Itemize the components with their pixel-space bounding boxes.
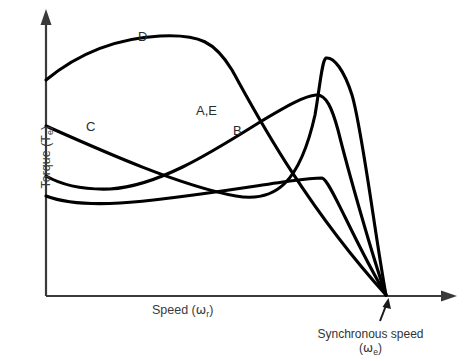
curve-B <box>46 178 386 295</box>
x-axis-label-close: ) <box>209 303 213 317</box>
plot-canvas <box>0 0 469 361</box>
synchronous-speed-pointer <box>380 298 391 321</box>
x-axis-label-text: Speed ( <box>152 303 196 317</box>
x-axis-arrowhead <box>441 291 457 302</box>
curve-label-D: D <box>138 30 147 45</box>
x-axis <box>46 291 457 302</box>
sync-subscript: e <box>373 347 378 357</box>
sync-label-line2: (ωe) <box>303 342 438 356</box>
curve-C <box>46 58 386 295</box>
curve-label-A-E: A,E <box>196 104 217 119</box>
y-axis-arrowhead <box>41 9 52 25</box>
synchronous-speed-label: Synchronous speed (ωe) <box>303 328 438 356</box>
y-axis-label-symbol: T <box>39 135 53 143</box>
y-axis-label-subscript: e <box>45 130 55 135</box>
sync-close-paren: ) <box>378 341 382 355</box>
sync-omega-symbol: ω <box>363 341 373 355</box>
torque-speed-figure: D C A,E B Torque (Te) Speed (ωr) Synchro… <box>0 0 469 361</box>
curve-label-C: C <box>86 120 95 135</box>
y-axis-label: Torque (Te) <box>39 97 53 217</box>
y-axis-label-text: Torque ( <box>39 143 53 189</box>
sync-label-line1: Synchronous speed <box>317 327 423 341</box>
x-axis-label-symbol: ω <box>196 302 206 317</box>
pointer-arrowhead <box>383 298 392 309</box>
x-axis-label: Speed (ωr) <box>152 303 213 317</box>
curve-label-B: B <box>233 124 242 139</box>
curve-D <box>46 36 386 295</box>
x-axis-label-subscript: r <box>206 309 209 319</box>
